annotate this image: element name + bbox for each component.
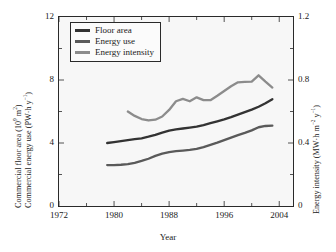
- y-left-l1-sup2: 2: [12, 107, 18, 110]
- y-right-sup1: −2: [310, 120, 316, 126]
- legend-swatch-energy-intensity: [75, 51, 90, 54]
- y-left-l2-sup: −1: [23, 95, 29, 101]
- x-tick-label: 1972: [39, 210, 79, 220]
- legend-item: Energy intensity: [75, 47, 154, 58]
- y-right-tick-label: 1.2: [298, 11, 324, 21]
- y-left-tick-label: 4: [32, 137, 54, 147]
- y-right-mid: y: [312, 113, 321, 119]
- y-right-sup2: −1: [310, 108, 316, 114]
- x-tick-label: 2004: [259, 210, 299, 220]
- x-tick-label: 1988: [149, 210, 189, 220]
- y-axis-left-title-line1: Commercial floor area (109 m2): [14, 92, 24, 208]
- y-axis-left-title-line2: Commercial energy use (PW·h y−1): [24, 92, 34, 208]
- y-right-tick-label: 0.4: [298, 137, 324, 147]
- y-axis-right-title: Energy intensity (MW·h m−2 y−1): [312, 105, 322, 214]
- legend-label: Energy use: [95, 36, 135, 47]
- y-left-tick-label: 12: [32, 11, 54, 21]
- y-left-tick-label: 0: [32, 200, 54, 210]
- y-left-l2-pre: Commercial energy use (PW·h y: [24, 100, 33, 208]
- legend-item: Energy use: [75, 36, 154, 47]
- y-right-tick-label: 0.8: [298, 74, 324, 84]
- y-left-l1-post: m: [14, 110, 23, 118]
- y-left-l1-end: ): [14, 104, 23, 107]
- legend-label: Floor area: [95, 25, 132, 36]
- chart-figure: Commercial floor area (109 m2) Commercia…: [0, 0, 336, 252]
- y-axis-left-title: Commercial floor area (109 m2) Commercia…: [14, 92, 35, 208]
- legend-item: Floor area: [75, 25, 154, 36]
- y-left-l1-pre: Commercial floor area (10: [14, 121, 23, 208]
- legend-label: Energy intensity: [95, 47, 154, 58]
- legend-swatch-energy-use: [75, 40, 90, 43]
- y-right-tick-label: 0: [298, 200, 324, 210]
- x-tick-label: 1980: [94, 210, 134, 220]
- x-axis-title: Year: [0, 232, 336, 242]
- y-left-l2-end: ): [24, 92, 33, 95]
- legend-swatch-floor-area: [75, 29, 90, 32]
- chart-legend: Floor area Energy use Energy intensity: [70, 22, 161, 62]
- y-left-l1-sup: 9: [12, 118, 18, 121]
- y-left-tick-label: 8: [32, 74, 54, 84]
- y-right-end: ): [312, 105, 321, 108]
- x-tick-label: 1996: [204, 210, 244, 220]
